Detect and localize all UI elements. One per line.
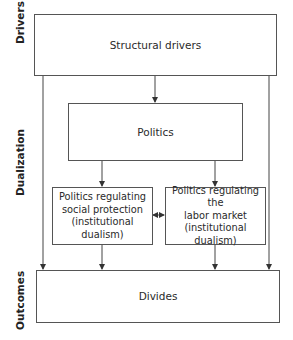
politics-label: Politics — [137, 126, 174, 139]
social-protection-line3: (institutional dualism) — [53, 216, 152, 241]
structural-drivers-box: Structural drivers — [34, 14, 277, 76]
labor-market-line3: (institutional dualism) — [166, 222, 265, 247]
labor-market-line1: Politics regulating the — [166, 185, 265, 210]
side-label-outcomes: Outcomes — [14, 271, 26, 330]
social-protection-line2: social protection — [62, 204, 143, 217]
labor-market-line2: labor market — [184, 210, 247, 223]
divides-label: Divides — [139, 290, 178, 303]
labor-market-box: Politics regulating the labor market (in… — [165, 187, 266, 245]
social-protection-box: Politics regulating social protection (i… — [52, 187, 153, 245]
side-label-drivers: Drivers — [14, 1, 26, 44]
social-protection-line1: Politics regulating — [59, 191, 146, 204]
politics-box: Politics — [68, 103, 243, 161]
side-label-dualization: Dualization — [14, 129, 26, 196]
structural-drivers-label: Structural drivers — [110, 39, 202, 52]
divides-box: Divides — [36, 270, 280, 323]
